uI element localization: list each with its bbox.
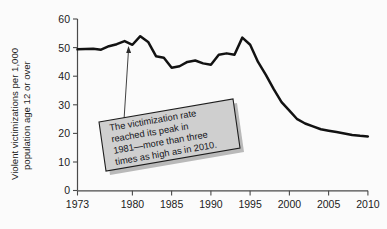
x-tick-label: 1995 — [238, 198, 262, 210]
x-tick-label: 2005 — [317, 198, 341, 210]
y-axis-title-line1: Violent victimizations per 1,000 — [9, 48, 20, 180]
y-tick-label: 10 — [58, 156, 70, 168]
annotation-leader-line — [124, 46, 131, 120]
x-tick-label: 1973 — [66, 198, 90, 210]
x-tick-label: 1990 — [199, 198, 223, 210]
y-axis-tick-labels: 60 50 40 30 20 10 0 — [58, 13, 70, 196]
y-tick-label: 20 — [58, 127, 70, 139]
y-axis-title-line2: population age 12 or over — [21, 60, 32, 170]
y-axis — [73, 19, 78, 191]
x-tick-label: 2010 — [356, 198, 380, 210]
y-tick-label: 50 — [58, 42, 70, 54]
chart-figure: Violent victimizations per 1,000 populat… — [0, 0, 387, 229]
y-tick-label: 40 — [58, 70, 70, 82]
y-axis-title: Violent victimizations per 1,000 populat… — [9, 48, 32, 180]
x-tick-label: 1985 — [160, 198, 184, 210]
x-tick-label: 1980 — [121, 198, 145, 210]
x-axis-tick-labels: 1973 1980 1985 1990 1995 2000 2005 2010 — [66, 198, 380, 210]
x-tick-label: 2000 — [278, 198, 302, 210]
annotation-callout: The victimization rate reached its peak … — [99, 99, 244, 175]
y-tick-label: 30 — [58, 99, 70, 111]
leader-arrowhead — [126, 46, 131, 53]
line-chart: Violent victimizations per 1,000 populat… — [0, 0, 387, 229]
x-axis — [78, 191, 369, 196]
y-tick-label: 0 — [64, 184, 70, 196]
y-tick-label: 60 — [58, 13, 70, 25]
